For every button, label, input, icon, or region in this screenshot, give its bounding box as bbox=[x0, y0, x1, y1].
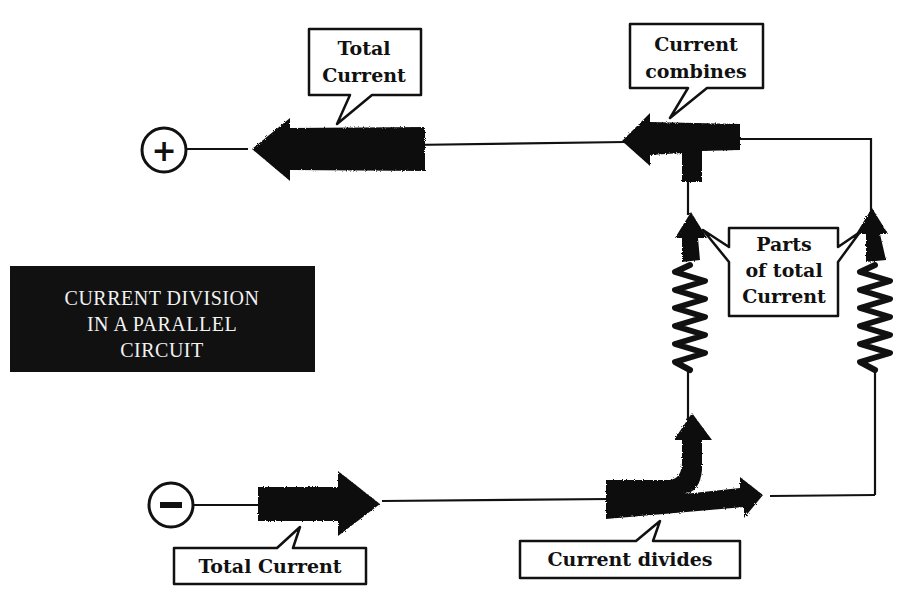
title-line-2: IN A PARALLEL bbox=[87, 313, 237, 335]
resistor-right-icon bbox=[860, 265, 890, 370]
callout-parts-line-3: Current bbox=[742, 285, 826, 307]
callout-top-total-current-line-2: Current bbox=[322, 64, 406, 86]
title-box: CURRENT DIVISION IN A PARALLEL CIRCUIT bbox=[10, 266, 315, 372]
arrow-right-branch-icon bbox=[856, 208, 888, 262]
callout-current-divides: Current divides bbox=[520, 521, 740, 578]
callout-bottom-total-current: Total Current bbox=[174, 527, 366, 584]
callout-current-combines-line-1: Current bbox=[654, 33, 738, 55]
positive-terminal: + bbox=[142, 128, 186, 172]
title-line-3: CIRCUIT bbox=[120, 339, 204, 361]
callout-parts-line-1: Parts bbox=[756, 233, 812, 255]
callout-top-total-current: Total Current bbox=[309, 29, 421, 124]
arrow-current-combines-icon bbox=[622, 113, 740, 182]
arrow-current-divides-icon bbox=[606, 413, 763, 519]
wire-top-main bbox=[410, 142, 625, 145]
arrow-left-branch-icon bbox=[675, 212, 707, 262]
callout-top-total-current-line-1: Total bbox=[338, 37, 391, 59]
resistor-left-icon bbox=[675, 265, 705, 370]
callout-current-combines: Current combines bbox=[630, 24, 763, 118]
parallel-circuit-diagram: + CURRENT DIVISION IN A PARALLEL CIRCUIT… bbox=[0, 0, 901, 604]
arrow-total-current-bottom-icon bbox=[258, 471, 380, 536]
callout-bottom-total-current-label: Total Current bbox=[198, 555, 341, 577]
callout-current-combines-line-2: combines bbox=[645, 60, 746, 82]
wire-bottom-right bbox=[770, 495, 875, 496]
wire-bottom-main bbox=[382, 499, 610, 501]
arrow-total-current-top-icon bbox=[252, 118, 425, 181]
minus-icon bbox=[160, 502, 182, 508]
plus-icon: + bbox=[151, 133, 176, 168]
callout-parts-line-2: of total bbox=[745, 259, 822, 281]
wire-top-right bbox=[740, 139, 871, 215]
callout-parts-of-total-current: Parts of total Current bbox=[703, 228, 860, 316]
callout-current-divides-label: Current divides bbox=[547, 548, 712, 570]
title-line-1: CURRENT DIVISION bbox=[65, 287, 260, 309]
negative-terminal bbox=[149, 483, 193, 527]
